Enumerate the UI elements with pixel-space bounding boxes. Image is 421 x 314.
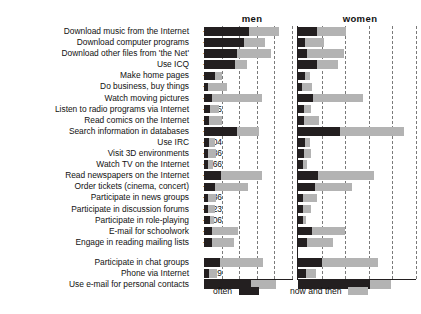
chart-row: Watch moving pictures-.227: [0, 93, 421, 104]
chart-row: Read comics on the Internet-.217: [0, 115, 421, 126]
bar-track-women: [298, 83, 416, 92]
bar-segment-often: [298, 227, 312, 236]
bar-segment-often: [298, 138, 305, 147]
bar-track-men: [204, 194, 292, 203]
bar-segment-now-and-then: [212, 238, 234, 247]
baseline-women: [297, 279, 416, 280]
bar-track-men: [204, 258, 292, 267]
bar-segment-now-and-then: [304, 149, 311, 158]
bar-segment-now-and-then: [307, 49, 344, 58]
bar-segment-now-and-then: [208, 205, 214, 214]
bar-segment-now-and-then: [209, 138, 215, 147]
bar-track-women: [298, 72, 416, 81]
bar-track-men: [204, 227, 292, 236]
bar-track-men: [204, 27, 292, 36]
bar-track-women: [298, 149, 416, 158]
chart-container: men women Download music from the Intern…: [0, 0, 421, 314]
bar-segment-now-and-then: [215, 183, 248, 192]
legend-entry-often: often: [213, 286, 259, 297]
chart-row: Make home pages-.306: [0, 70, 421, 81]
bar-segment-now-and-then: [304, 116, 319, 125]
bar-track-women: [298, 269, 416, 278]
row-label: Watch moving pictures: [0, 93, 189, 104]
row-label: Participate in chat groups: [0, 257, 189, 268]
bar-segment-often: [298, 127, 340, 136]
row-label: Do business, buy things: [0, 81, 189, 92]
chart-row: Download other files from 'the Net'-.568: [0, 48, 421, 59]
row-label: Engage in reading mailing lists: [0, 237, 189, 248]
bar-segment-now-and-then: [322, 258, 379, 267]
bar-segment-now-and-then: [303, 216, 307, 225]
chart-row: Listen to radio programs via Internet-.2…: [0, 104, 421, 115]
panel-title-women: women: [330, 13, 390, 24]
bar-track-women: [298, 171, 416, 180]
bar-segment-often: [298, 258, 322, 267]
row-label: Read newspapers on the Internet: [0, 170, 189, 181]
bar-segment-now-and-then: [209, 269, 217, 278]
bar-track-men: [204, 160, 292, 169]
legend-entry-now-and-then: now and then: [290, 286, 368, 297]
bar-track-women: [298, 105, 416, 114]
bar-segment-often: [204, 238, 212, 247]
bar-segment-now-and-then: [209, 116, 221, 125]
bar-segment-often: [298, 94, 313, 103]
bar-segment-often: [298, 269, 306, 278]
bar-track-women: [298, 27, 416, 36]
bar-segment-now-and-then: [307, 238, 333, 247]
bar-track-women: [298, 116, 416, 125]
bar-track-women: [298, 38, 416, 47]
bar-track-men: [204, 149, 292, 158]
bar-segment-now-and-then: [304, 105, 311, 114]
row-label: Search information in databases: [0, 126, 189, 137]
row-label: Participate in news groups: [0, 192, 189, 203]
bar-segment-now-and-then: [249, 27, 279, 36]
bar-segment-often: [298, 183, 315, 192]
bar-track-men: [204, 116, 292, 125]
row-label: Make home pages: [0, 70, 189, 81]
row-label: Download music from the Internet: [0, 26, 189, 37]
bar-track-women: [298, 127, 416, 136]
bar-track-men: [204, 138, 292, 147]
bar-segment-now-and-then: [317, 27, 347, 36]
bar-segment-now-and-then: [208, 194, 216, 203]
bar-segment-now-and-then: [208, 160, 212, 169]
bar-segment-now-and-then: [221, 171, 262, 180]
bar-segment-often: [204, 227, 212, 236]
bar-track-men: [204, 171, 292, 180]
bar-segment-now-and-then: [210, 105, 219, 114]
bar-segment-often: [204, 127, 237, 136]
chart-row: Download computer programs-.578: [0, 37, 421, 48]
chart-row: Engage in reading mailing lists-.079: [0, 237, 421, 248]
bar-segment-now-and-then: [317, 60, 338, 69]
row-label: Participate in role-playing: [0, 215, 189, 226]
bar-segment-often: [204, 72, 215, 81]
chart-row: Participate in discussion forums-.123: [0, 204, 421, 215]
bar-segment-now-and-then: [215, 72, 223, 81]
row-label: Watch TV on the Internet: [0, 159, 189, 170]
bar-segment-now-and-then: [302, 83, 313, 92]
row-label: Visit 3D environments: [0, 148, 189, 159]
bar-track-men: [204, 216, 292, 225]
row-label: E-mail for schoolwork: [0, 226, 189, 237]
bar-segment-now-and-then: [312, 227, 345, 236]
chart-row: Do business, buy things-.249: [0, 81, 421, 92]
bar-segment-now-and-then: [315, 183, 353, 192]
bar-track-women: [298, 258, 416, 267]
legend-label-often: often: [213, 286, 232, 297]
bar-track-women: [298, 183, 416, 192]
bar-segment-now-and-then: [313, 94, 363, 103]
bar-track-women: [298, 60, 416, 69]
bar-segment-now-and-then: [303, 194, 317, 203]
bar-track-women: [298, 238, 416, 247]
chart-row: Watch TV on the Internet-.166: [0, 159, 421, 170]
bar-segment-now-and-then: [305, 138, 310, 147]
bar-track-men: [204, 238, 292, 247]
row-label: Use ICQ: [0, 59, 189, 70]
bar-track-women: [298, 194, 416, 203]
row-label: Use e-mail for personal contacts: [0, 279, 189, 290]
row-label: Download computer programs: [0, 37, 189, 48]
bar-segment-now-and-then: [208, 149, 216, 158]
bar-segment-now-and-then: [212, 227, 238, 236]
legend-label-now-and-then: now and then: [290, 286, 342, 297]
row-label: Phone via Internet: [0, 268, 189, 279]
